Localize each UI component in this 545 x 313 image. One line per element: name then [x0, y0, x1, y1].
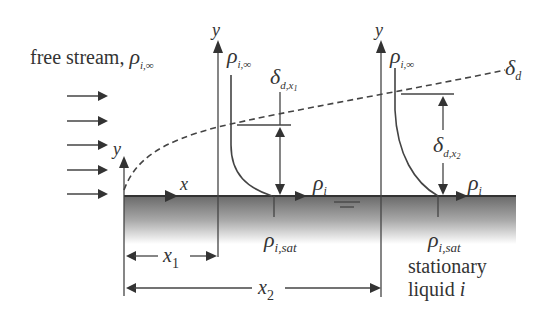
delta-x2-label: δd,x2 [433, 132, 460, 161]
profile-x1-rho-inf: ρi,∞ [226, 43, 251, 70]
svg-text:y: y [210, 20, 220, 40]
svg-text:x: x [179, 174, 188, 194]
rho-i-label-2: ρi [467, 170, 482, 198]
x2-dimension: x2 [126, 276, 381, 303]
stationary-label-line2: liquid i [408, 278, 465, 301]
profile-x2-y-axis: y [373, 20, 386, 297]
svg-text:y: y [111, 139, 121, 159]
rho-i-label-1: ρi [312, 170, 327, 198]
stationary-label-line1: stationary [408, 255, 487, 278]
profile-x2-rho-inf: ρi,∞ [389, 43, 414, 70]
delta-d-label: δd [505, 55, 522, 83]
svg-text:y: y [373, 20, 383, 40]
profile-x1-curve [231, 75, 272, 196]
diagram-canvas: free stream, ρi,∞ y x δd y ρi,∞ δd,x1 ρi… [0, 0, 545, 313]
liquid-region [124, 196, 516, 244]
svg-text:x2: x2 [257, 276, 274, 303]
svg-text:x1: x1 [162, 244, 179, 271]
x1-dimension: x1 [126, 244, 217, 271]
free-stream-arrows-icon [67, 91, 108, 199]
free-stream-label: free stream, ρi,∞ [30, 44, 154, 71]
delta-x1-label: δd,x1 [270, 64, 297, 93]
